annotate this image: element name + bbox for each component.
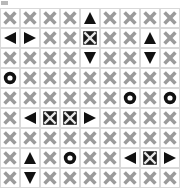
x-mark-icon bbox=[162, 30, 178, 46]
grid-cell-r3-c6[interactable] bbox=[100, 48, 120, 68]
x-mark-icon bbox=[2, 150, 18, 166]
grid-cell-r7-c8[interactable] bbox=[140, 128, 160, 148]
grid-cell-r5-c3[interactable] bbox=[40, 88, 60, 108]
grid-cell-r3-c9[interactable] bbox=[160, 48, 180, 68]
grid-cell-r8-c8[interactable] bbox=[140, 148, 160, 168]
x-mark-icon bbox=[122, 110, 138, 126]
grid-cell-r8-c1[interactable] bbox=[0, 148, 20, 168]
grid-cell-r4-c2[interactable] bbox=[20, 68, 40, 88]
triangle-right-icon bbox=[162, 150, 178, 166]
x-mark-icon bbox=[22, 10, 38, 26]
grid-cell-r9-c2[interactable] bbox=[20, 168, 40, 188]
grid-cell-r5-c7[interactable] bbox=[120, 88, 140, 108]
grid-cell-r2-c5[interactable] bbox=[80, 28, 100, 48]
grid-cell-r9-c5[interactable] bbox=[80, 168, 100, 188]
grid-cell-r4-c1[interactable] bbox=[0, 68, 20, 88]
grid-cell-r4-c9[interactable] bbox=[160, 68, 180, 88]
grid-cell-r9-c9[interactable] bbox=[160, 168, 180, 188]
grid-cell-r2-c4[interactable] bbox=[60, 28, 80, 48]
grid-cell-r7-c2[interactable] bbox=[20, 128, 40, 148]
x-mark-icon bbox=[122, 30, 138, 46]
grid-cell-r7-c4[interactable] bbox=[60, 128, 80, 148]
grid-cell-r1-c3[interactable] bbox=[40, 8, 60, 28]
grid-cell-r5-c6[interactable] bbox=[100, 88, 120, 108]
grid-cell-r6-c9[interactable] bbox=[160, 108, 180, 128]
grid-cell-r1-c2[interactable] bbox=[20, 8, 40, 28]
grid-cell-r2-c3[interactable] bbox=[40, 28, 60, 48]
puzzle-grid[interactable] bbox=[0, 8, 180, 188]
grid-cell-r5-c1[interactable] bbox=[0, 88, 20, 108]
grid-cell-r4-c8[interactable] bbox=[140, 68, 160, 88]
triangle-up-icon bbox=[82, 10, 98, 26]
x-mark-icon bbox=[2, 130, 18, 146]
grid-cell-r1-c9[interactable] bbox=[160, 8, 180, 28]
x-mark-icon bbox=[2, 50, 18, 66]
grid-cell-r3-c1[interactable] bbox=[0, 48, 20, 68]
grid-cell-r9-c7[interactable] bbox=[120, 168, 140, 188]
grid-cell-r1-c1[interactable] bbox=[0, 8, 20, 28]
grid-cell-r1-c4[interactable] bbox=[60, 8, 80, 28]
x-mark-icon bbox=[42, 170, 58, 186]
grid-cell-r5-c8[interactable] bbox=[140, 88, 160, 108]
corner-marker bbox=[1, 1, 8, 5]
grid-cell-r5-c4[interactable] bbox=[60, 88, 80, 108]
grid-cell-r6-c5[interactable] bbox=[80, 108, 100, 128]
grid-cell-r4-c4[interactable] bbox=[60, 68, 80, 88]
grid-cell-r6-c3[interactable] bbox=[40, 108, 60, 128]
grid-cell-r7-c5[interactable] bbox=[80, 128, 100, 148]
grid-cell-r6-c2[interactable] bbox=[20, 108, 40, 128]
x-mark-icon bbox=[42, 150, 58, 166]
grid-cell-r8-c6[interactable] bbox=[100, 148, 120, 168]
grid-cell-r5-c2[interactable] bbox=[20, 88, 40, 108]
grid-cell-r1-c5[interactable] bbox=[80, 8, 100, 28]
grid-cell-r4-c6[interactable] bbox=[100, 68, 120, 88]
x-mark-icon bbox=[122, 170, 138, 186]
grid-cell-r8-c7[interactable] bbox=[120, 148, 140, 168]
grid-cell-r9-c4[interactable] bbox=[60, 168, 80, 188]
x-mark-icon bbox=[22, 90, 38, 106]
grid-cell-r4-c3[interactable] bbox=[40, 68, 60, 88]
grid-cell-r2-c8[interactable] bbox=[140, 28, 160, 48]
grid-cell-r6-c1[interactable] bbox=[0, 108, 20, 128]
grid-cell-r3-c3[interactable] bbox=[40, 48, 60, 68]
grid-cell-r3-c2[interactable] bbox=[20, 48, 40, 68]
grid-cell-r3-c8[interactable] bbox=[140, 48, 160, 68]
x-mark-icon bbox=[162, 130, 178, 146]
grid-cell-r8-c2[interactable] bbox=[20, 148, 40, 168]
grid-cell-r6-c6[interactable] bbox=[100, 108, 120, 128]
grid-cell-r5-c5[interactable] bbox=[80, 88, 100, 108]
x-mark-icon bbox=[102, 150, 118, 166]
grid-cell-r9-c1[interactable] bbox=[0, 168, 20, 188]
grid-cell-r7-c7[interactable] bbox=[120, 128, 140, 148]
grid-cell-r1-c6[interactable] bbox=[100, 8, 120, 28]
grid-cell-r8-c3[interactable] bbox=[40, 148, 60, 168]
boxed-x-icon bbox=[62, 110, 78, 126]
grid-cell-r3-c5[interactable] bbox=[80, 48, 100, 68]
grid-cell-r6-c8[interactable] bbox=[140, 108, 160, 128]
grid-cell-r2-c7[interactable] bbox=[120, 28, 140, 48]
grid-cell-r4-c7[interactable] bbox=[120, 68, 140, 88]
grid-cell-r9-c6[interactable] bbox=[100, 168, 120, 188]
x-mark-icon bbox=[42, 70, 58, 86]
grid-cell-r8-c5[interactable] bbox=[80, 148, 100, 168]
grid-cell-r7-c1[interactable] bbox=[0, 128, 20, 148]
grid-cell-r5-c9[interactable] bbox=[160, 88, 180, 108]
grid-cell-r7-c9[interactable] bbox=[160, 128, 180, 148]
grid-cell-r2-c9[interactable] bbox=[160, 28, 180, 48]
grid-cell-r9-c3[interactable] bbox=[40, 168, 60, 188]
grid-cell-r6-c4[interactable] bbox=[60, 108, 80, 128]
grid-cell-r2-c1[interactable] bbox=[0, 28, 20, 48]
grid-cell-r9-c8[interactable] bbox=[140, 168, 160, 188]
grid-cell-r3-c4[interactable] bbox=[60, 48, 80, 68]
grid-cell-r8-c9[interactable] bbox=[160, 148, 180, 168]
grid-cell-r7-c3[interactable] bbox=[40, 128, 60, 148]
grid-cell-r4-c5[interactable] bbox=[80, 68, 100, 88]
grid-cell-r2-c2[interactable] bbox=[20, 28, 40, 48]
grid-cell-r7-c6[interactable] bbox=[100, 128, 120, 148]
grid-cell-r8-c4[interactable] bbox=[60, 148, 80, 168]
grid-cell-r3-c7[interactable] bbox=[120, 48, 140, 68]
grid-cell-r1-c7[interactable] bbox=[120, 8, 140, 28]
grid-cell-r1-c8[interactable] bbox=[140, 8, 160, 28]
grid-cell-r2-c6[interactable] bbox=[100, 28, 120, 48]
grid-cell-r6-c7[interactable] bbox=[120, 108, 140, 128]
